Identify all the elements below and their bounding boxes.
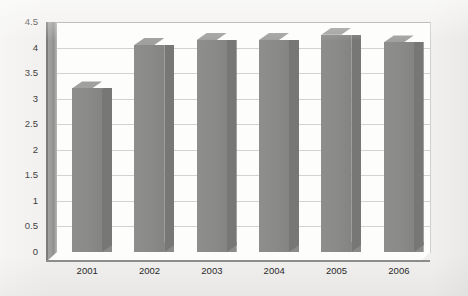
bar-top-face (321, 28, 351, 35)
bar-top-face (384, 35, 414, 42)
bar-side-face (164, 45, 174, 252)
y-tick-label: 1 (2, 196, 38, 206)
bar-front-face (259, 40, 289, 252)
bar-side-face (289, 40, 299, 252)
bar-2001[interactable] (72, 88, 102, 252)
bar-chart-figure: 4.5 4 3.5 3 2.5 2 1.5 1 0.5 0 (0, 0, 468, 296)
bar-front-face (384, 42, 414, 252)
bar-top-face (259, 33, 289, 40)
y-tick-label: 2.5 (2, 119, 38, 129)
y-tick-label: 2 (2, 145, 38, 155)
bar-2003[interactable] (197, 40, 227, 252)
bar-front-face (197, 40, 227, 252)
bar-side-face (351, 35, 361, 252)
x-tick-label: 2003 (201, 266, 222, 276)
bar-front-face (321, 35, 351, 252)
bar-front-face (72, 88, 102, 252)
x-axis-tick-labels: 2001 2002 2003 2004 2005 2006 (46, 266, 430, 284)
y-tick-label: 0.5 (2, 222, 38, 232)
x-tick-label: 2001 (77, 266, 98, 276)
bar-2004[interactable] (259, 40, 289, 252)
y-tick-label: 3 (2, 94, 38, 104)
y-tick-label: 4.5 (2, 17, 38, 27)
x-tick-label: 2004 (264, 266, 285, 276)
bar-side-face (102, 88, 112, 252)
bar-side-face (414, 42, 424, 252)
bar-series (56, 22, 430, 262)
x-tick-label: 2006 (388, 266, 409, 276)
bar-side-face (227, 40, 237, 252)
bar-2005[interactable] (321, 35, 351, 252)
bar-top-face (134, 38, 164, 45)
bar-2006[interactable] (384, 42, 414, 252)
y-tick-label: 1.5 (2, 171, 38, 181)
bar-top-face (72, 81, 102, 88)
plot-area (46, 22, 430, 262)
y-axis-line (46, 22, 48, 262)
bar-front-face (134, 45, 164, 252)
x-tick-label: 2002 (139, 266, 160, 276)
x-tick-label: 2005 (326, 266, 347, 276)
bar-2002[interactable] (134, 45, 164, 252)
y-tick-label: 0 (2, 247, 38, 257)
y-tick-label: 3.5 (2, 68, 38, 78)
y-tick-label: 4 (2, 43, 38, 53)
x-axis-line (46, 260, 430, 262)
bar-top-face (197, 33, 227, 40)
